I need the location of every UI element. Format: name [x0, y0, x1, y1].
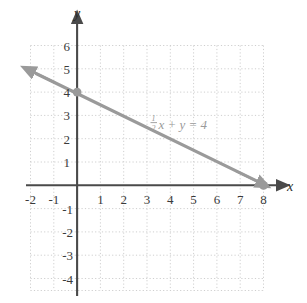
y-tick-label: 2 [64, 132, 71, 147]
x-tick-label: 2 [120, 192, 127, 207]
point-y-intercept [73, 88, 82, 97]
x-tick-label: 8 [260, 192, 267, 207]
y-tick-label: 6 [64, 39, 71, 54]
y-tick-label: -1 [62, 202, 73, 217]
x-tick-label: 1 [97, 192, 104, 207]
equation-fraction-numerator: 1 [152, 114, 156, 123]
y-tick-label: -2 [62, 225, 73, 240]
y-tick-label: 4 [64, 85, 71, 100]
equation-line-arrow-lower-right [236, 171, 259, 182]
linear-equation-graph: 6 5 4 3 2 1 -1 -2 -3 -4 -2 -1 1 2 3 4 5 … [0, 0, 307, 303]
equation-fraction-denominator: 2 [152, 124, 156, 133]
x-tick-label: -1 [48, 192, 59, 207]
x-tick-label: 6 [214, 192, 221, 207]
equation-annotation: 1 2 x + y = 4 [151, 114, 208, 133]
y-axis-label: y [72, 6, 81, 21]
y-tick-label: 1 [64, 155, 71, 170]
equation-label: x + y = 4 [158, 117, 208, 132]
x-tick-label: 3 [144, 192, 151, 207]
y-tick-label: 3 [64, 108, 71, 123]
y-tick-label: -3 [62, 248, 73, 263]
equation-line-arrow-upper-left [33, 72, 55, 83]
x-tick-label: 4 [167, 192, 174, 207]
x-axis-label: x [286, 179, 294, 194]
x-tick-label: -2 [25, 192, 36, 207]
point-x-intercept [259, 181, 268, 190]
x-tick-label: 7 [237, 192, 244, 207]
x-tick-label: 5 [190, 192, 197, 207]
y-tick-label: -4 [62, 272, 73, 287]
coordinate-plane-svg: 6 5 4 3 2 1 -1 -2 -3 -4 -2 -1 1 2 3 4 5 … [0, 0, 307, 303]
y-tick-label: 5 [64, 62, 71, 77]
